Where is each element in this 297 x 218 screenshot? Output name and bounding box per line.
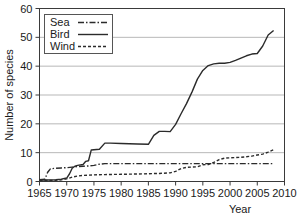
x-tick-label-1970: 1970 [54, 187, 78, 199]
x-tick-label-2005: 2005 [245, 187, 269, 199]
x-tick-label-2010: 2010 [272, 187, 296, 199]
legend-label-bird: Bird [50, 28, 70, 40]
y-tick-label-50: 50 [20, 31, 32, 43]
x-tick-label-1975: 1975 [82, 187, 106, 199]
x-axis-title: Year [229, 203, 252, 215]
y-tick-label-40: 40 [20, 60, 32, 72]
legend-label-sea: Sea [50, 16, 70, 28]
legend-label-wind: Wind [50, 40, 75, 52]
y-tick-label-20: 20 [20, 118, 32, 130]
y-tick-label-60: 60 [20, 3, 32, 15]
x-tick-label-1965: 1965 [27, 187, 51, 199]
y-tick-label-10: 10 [20, 147, 32, 159]
species-line-chart: 0102030405060 19651970197519801985199019… [0, 0, 297, 218]
chart-container: 0102030405060 19651970197519801985199019… [0, 0, 297, 218]
x-tick-label-1995: 1995 [191, 187, 215, 199]
chart-legend: Sea Bird Wind [45, 15, 113, 54]
x-tick-label-2000: 2000 [218, 187, 242, 199]
x-tick-label-1985: 1985 [136, 187, 160, 199]
y-axis-title: Number of species [3, 49, 15, 141]
x-tick-label-1990: 1990 [163, 187, 187, 199]
x-tick-label-1980: 1980 [109, 187, 133, 199]
y-tick-label-30: 30 [20, 89, 32, 101]
